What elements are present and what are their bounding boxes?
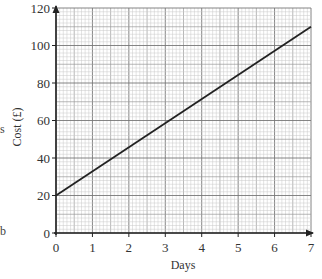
line-chart: 01234567020406080100120 Days Cost (£) s … [0,0,322,279]
y-tick-label: 80 [37,76,50,91]
x-axis-arrow-icon [306,230,314,237]
y-tick-label: 100 [31,38,51,53]
y-tick-label: 120 [31,1,51,16]
x-tick-label: 7 [308,240,315,255]
y-axis-arrow-icon [53,5,60,13]
y-tick-label: 60 [37,113,50,128]
x-tick-label: 3 [162,240,169,255]
y-axis-title: Cost (£) [10,107,24,146]
x-tick-label: 1 [89,240,96,255]
x-tick-label: 5 [235,240,242,255]
y-tick-label: 20 [37,188,50,203]
x-tick-label: 2 [126,240,133,255]
cropped-text-fragment: b [0,224,6,238]
cropped-text-fragment: s [0,122,5,136]
x-tick-label: 6 [271,240,278,255]
grid [56,8,311,233]
x-tick-label: 4 [198,240,205,255]
y-tick-label: 0 [44,226,51,241]
y-tick-label: 40 [37,151,50,166]
x-tick-label: 0 [53,240,60,255]
x-axis-title: Days [171,258,196,272]
